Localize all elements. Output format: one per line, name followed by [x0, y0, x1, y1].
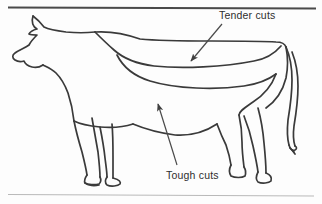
cow-diagram-svg	[0, 0, 322, 204]
tough-cuts-label: Tough cuts	[166, 170, 219, 181]
figure-canvas: Tender cuts Tough cuts	[0, 0, 322, 204]
tender-cuts-label: Tender cuts	[219, 10, 275, 21]
tender-cuts-arrow-icon	[191, 24, 222, 61]
cow-outline-icon	[13, 16, 298, 186]
bottom-rule-icon	[8, 195, 314, 197]
